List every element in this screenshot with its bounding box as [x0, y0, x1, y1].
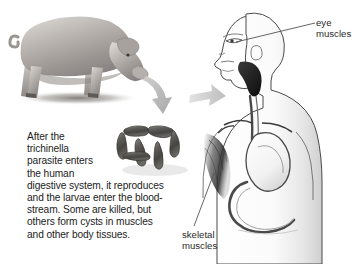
- pig-illustration: [10, 17, 148, 105]
- caption-line: stream. Some are killed, but: [27, 204, 179, 216]
- pig-tail: [10, 36, 18, 47]
- caption-line: trichinella: [27, 143, 111, 155]
- caption-line: digestive system, it reproduces: [27, 180, 179, 192]
- pig-eye: [126, 53, 129, 56]
- human-torso-anatomy-illustration: [203, 13, 322, 264]
- human-lips: [221, 61, 234, 62]
- caption-line: others form cysts in muscles: [27, 216, 179, 228]
- arrow-pig-to-worms: [143, 76, 172, 114]
- caption-line: After the: [27, 131, 111, 143]
- human-pupil: [230, 39, 233, 42]
- leader-line-skeletal: [194, 173, 214, 226]
- label-skeletal-muscles: skeletal muscles: [182, 229, 217, 251]
- label-eye-muscles: eye muscles: [316, 17, 351, 39]
- caption-line: and the larvae enter the blood-: [27, 192, 179, 204]
- caption-text-block: After the trichinella parasite enters th…: [27, 131, 179, 241]
- caption-line: the human: [27, 168, 111, 180]
- caption-line: and other body tissues.: [27, 229, 179, 241]
- arrow-worms-to-human: [189, 84, 226, 106]
- caption-line: parasite enters: [27, 155, 111, 167]
- human-chin: [222, 70, 234, 72]
- diagram-canvas: After the trichinella parasite enters th…: [0, 0, 364, 264]
